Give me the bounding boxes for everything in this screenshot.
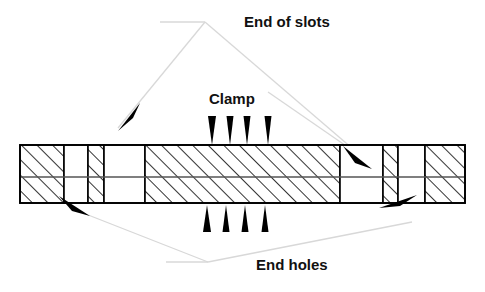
leader-end-holes-left — [78, 211, 208, 262]
label-clamp: Clamp — [209, 90, 255, 107]
clamp-arrow-top-2 — [227, 116, 234, 145]
clamp-arrow-bottom-2 — [223, 205, 230, 232]
bar-clamp-diagram: End of slots Clamp End holes — [0, 0, 485, 292]
clamp-arrow-bottom-4 — [262, 205, 269, 232]
clamp-arrow-top-3 — [244, 116, 251, 145]
leader-end-of-slots-right — [205, 22, 360, 155]
segment-left-narrow-hatch-strip — [88, 145, 104, 203]
segment-left-end-hatched-block — [20, 145, 64, 203]
segment-right-end-hatched-block — [425, 145, 465, 203]
label-end-of-slots: End of slots — [244, 13, 330, 30]
clamp-arrow-top-1 — [208, 116, 216, 145]
segment-left-slot-gap — [64, 145, 88, 203]
dart-end-of-slots-left — [118, 103, 140, 131]
segment-clamp-block — [145, 145, 340, 203]
diagram-canvas: End of slots Clamp End holes — [0, 0, 485, 292]
clamp-arrows-bottom-group — [203, 205, 269, 232]
leader-end-of-slots-left — [118, 22, 205, 128]
segment-right-slot-gap — [398, 145, 425, 203]
clamp-arrows-top-group — [208, 116, 272, 145]
segment-left-inner-slot-gap — [104, 145, 145, 203]
leader-clamp-hairline — [268, 92, 352, 150]
clamp-arrow-bottom-3 — [242, 205, 249, 232]
segment-right-inner-slot-gap — [340, 145, 383, 203]
clamp-arrow-top-4 — [265, 116, 272, 145]
bar-body-group — [20, 145, 465, 203]
segment-right-narrow-hatch-strip — [383, 145, 398, 203]
clamp-arrow-bottom-1 — [203, 205, 211, 232]
label-end-holes: End holes — [256, 256, 328, 273]
